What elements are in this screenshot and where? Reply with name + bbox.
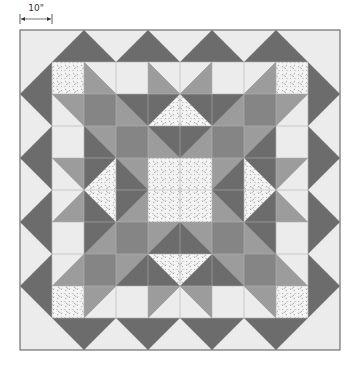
patch-print xyxy=(52,62,84,94)
patch-print xyxy=(276,62,308,94)
patch-print xyxy=(180,158,212,190)
dimension-label: 10" xyxy=(28,3,44,13)
quilt xyxy=(20,30,340,350)
patch-print xyxy=(276,286,308,318)
patch-light xyxy=(52,222,84,254)
patch-print xyxy=(52,286,84,318)
patch-light xyxy=(116,62,148,94)
arrow-left-icon xyxy=(21,17,25,21)
patch-medium_dark xyxy=(244,254,276,286)
patch-medium_dark xyxy=(84,254,116,286)
patch-print xyxy=(148,190,180,222)
patch-light xyxy=(276,222,308,254)
patch-print xyxy=(148,158,180,190)
patch-medium_dark xyxy=(244,94,276,126)
patch-medium_dark xyxy=(116,126,148,158)
patch-light xyxy=(212,286,244,318)
patch-medium_dark xyxy=(84,94,116,126)
patch-light xyxy=(116,286,148,318)
patch-light xyxy=(276,126,308,158)
patch-light xyxy=(212,62,244,94)
patch-light xyxy=(52,126,84,158)
dimension-marker: 10" xyxy=(20,3,52,24)
patch-print xyxy=(180,190,212,222)
patch-medium_dark xyxy=(116,222,148,254)
patch-medium_dark xyxy=(212,222,244,254)
patch-medium_dark xyxy=(212,126,244,158)
arrow-right-icon xyxy=(47,17,51,21)
quilt-diagram: 10" xyxy=(0,0,356,366)
